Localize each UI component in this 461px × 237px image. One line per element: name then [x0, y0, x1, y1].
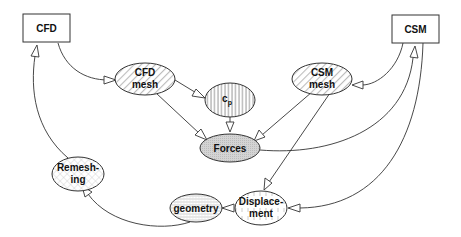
node-displacement: Displace- ment [235, 191, 287, 225]
node-cfd-mesh: CFD mesh [115, 63, 175, 95]
node-geometry: geometry [170, 194, 222, 222]
arrowhead-icon [410, 46, 418, 58]
arrowhead-icon [352, 81, 363, 89]
remeshing-label-line2: ing [71, 174, 86, 185]
edge-csm-mesh-to-displacement [269, 93, 330, 182]
edge-cfd-to-cfd-mesh [58, 43, 108, 80]
csm-mesh-label-line2: mesh [309, 79, 335, 90]
cfd-mesh-label-line1: CFD [135, 67, 156, 78]
remeshing-label-line1: Remesh- [57, 162, 99, 173]
coupling-diagram: CFD CSM CFD mesh cp CSM mesh Forces Reme… [0, 0, 461, 237]
arrowhead-icon [226, 122, 234, 132]
node-csm-mesh: CSM mesh [292, 63, 352, 95]
arrowhead-icon [104, 76, 116, 84]
node-remeshing: Remesh- ing [52, 157, 104, 191]
arrowhead-icon [31, 45, 39, 57]
node-cp: cp [205, 83, 255, 117]
forces-label: Forces [214, 143, 247, 154]
arrowhead-icon [288, 204, 300, 212]
geometry-label: geometry [173, 203, 218, 214]
csm-label: CSM [404, 24, 426, 35]
edge-csm-mesh-to-forces [262, 92, 312, 135]
cfd-mesh-label-line2: mesh [132, 79, 158, 90]
displacement-label-line2: ment [249, 208, 274, 219]
arrowhead-icon [222, 204, 234, 212]
edge-csm-to-csm-mesh [362, 43, 403, 85]
cfd-label: CFD [36, 23, 57, 34]
displacement-label-line1: Displace- [239, 196, 283, 207]
edge-cfd-mesh-to-forces [156, 93, 200, 134]
edge-remeshing-to-cfd [33, 56, 68, 158]
node-csm: CSM [392, 15, 439, 43]
arrowhead-icon [192, 89, 205, 98]
node-forces: Forces [200, 134, 260, 162]
cp-label-subscript: p [228, 99, 232, 107]
node-cfd: CFD [23, 14, 70, 42]
arrowhead-icon [254, 130, 265, 141]
csm-mesh-label-line1: CSM [311, 67, 333, 78]
